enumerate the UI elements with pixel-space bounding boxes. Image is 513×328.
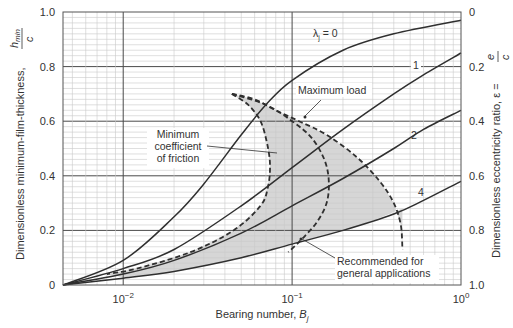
series-label-lambda-2: 2 <box>411 129 417 141</box>
svg-text:hmin: hmin <box>8 28 22 48</box>
x-tick-label: 100 <box>453 291 470 305</box>
journal-bearing-chart: 00.20.40.60.81.01.00.80.60.40.2010−210−1… <box>0 0 513 328</box>
annotation-maximum-load: Maximum load <box>298 84 366 96</box>
y2-tick-label: 0.8 <box>469 224 484 236</box>
x-tick-label: 10−2 <box>113 291 135 305</box>
y-axis-label: Dimensionless minimum-film-thickness, hm… <box>8 28 35 260</box>
annotation-min-friction-line: coefficient <box>154 140 201 152</box>
y2-tick-label: 0.2 <box>469 61 484 73</box>
annotation-min-friction-line: of friction <box>157 152 200 164</box>
annotation-recommended-line: Recommended for <box>337 255 424 267</box>
y-tick-label: 0 <box>49 279 55 291</box>
y-tick-label: 1.0 <box>40 6 55 18</box>
series-label-lambda-1: 1 <box>413 59 419 71</box>
y-tick-label: 0.6 <box>40 115 55 127</box>
series-label-lambda-4: 4 <box>418 186 424 198</box>
svg-text:c: c <box>499 54 511 60</box>
y-tick-label: 0.8 <box>40 61 55 73</box>
svg-text:Dimensionless minimum-film-thi: Dimensionless minimum-film-thickness, <box>14 67 26 260</box>
y-tick-label: 0.4 <box>40 170 55 182</box>
y2-tick-label: 0.4 <box>469 115 484 127</box>
series-label-lambda-0: λj = 0 <box>313 27 338 42</box>
y2-axis-label: Dimensionless eccentricity ratio, ε = e … <box>484 51 511 258</box>
x-axis-label: Bearing number, Bj <box>216 308 309 323</box>
y2-tick-label: 0 <box>469 6 475 18</box>
svg-text:e: e <box>484 54 496 60</box>
y-tick-label: 0.2 <box>40 224 55 236</box>
x-tick-label: 10−1 <box>281 291 303 305</box>
y2-tick-label: 0.6 <box>469 170 484 182</box>
svg-text:Dimensionless eccentricity rat: Dimensionless eccentricity ratio, ε = <box>490 83 502 258</box>
svg-text:c: c <box>23 36 35 42</box>
annotation-recommended-line: general applications <box>337 267 430 279</box>
y2-tick-label: 1.0 <box>469 279 484 291</box>
annotation-min-friction-line: Minimum <box>157 128 200 140</box>
